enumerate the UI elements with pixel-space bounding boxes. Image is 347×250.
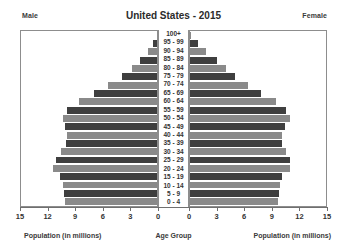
bar-male xyxy=(148,48,157,55)
bar-male xyxy=(53,165,157,172)
bar-row xyxy=(190,56,326,64)
bar-row xyxy=(190,48,326,56)
bar-female xyxy=(190,115,290,122)
bar-male xyxy=(122,73,157,80)
bar-row xyxy=(190,156,326,164)
bar-row xyxy=(190,123,326,131)
bar-female xyxy=(190,65,226,72)
bar-row xyxy=(190,89,326,97)
axis-tick-label: 3 xyxy=(128,212,132,221)
bar-female xyxy=(190,198,278,205)
bar-male xyxy=(66,140,157,147)
bar-male xyxy=(65,198,157,205)
bar-female xyxy=(190,173,282,180)
bar-female xyxy=(190,32,191,39)
bar-row xyxy=(21,31,157,39)
bar-row xyxy=(21,123,157,131)
age-group-label: 5 - 9 xyxy=(159,190,188,198)
axis-tick-label: 0 xyxy=(156,212,160,221)
axis-tick xyxy=(130,207,131,211)
bar-female xyxy=(190,73,235,80)
bar-row xyxy=(190,198,326,206)
age-group-label: 15 - 19 xyxy=(159,173,188,181)
population-pyramid-chart: Male Female United States - 2015 100+95 … xyxy=(0,0,347,250)
right-axis-caption: Population (in millions) xyxy=(254,232,331,239)
bar-row xyxy=(190,64,326,72)
age-group-label: 10 - 14 xyxy=(159,182,188,190)
age-group-label: 75 - 79 xyxy=(159,72,188,80)
bar-female xyxy=(190,98,276,105)
bar-row xyxy=(21,56,157,64)
bar-row xyxy=(190,164,326,172)
age-group-label: 55 - 59 xyxy=(159,106,188,114)
bar-row xyxy=(21,131,157,139)
bar-row xyxy=(21,139,157,147)
axis-tick-label: 3 xyxy=(215,212,219,221)
bar-male xyxy=(108,82,157,89)
bar-row xyxy=(190,173,326,181)
axis-tick xyxy=(48,207,49,211)
bar-row xyxy=(21,73,157,81)
bar-female xyxy=(190,107,286,114)
plot-area: 100+95 - 9990 - 9485 - 8980 - 8475 - 797… xyxy=(20,30,327,207)
bar-female xyxy=(190,48,206,55)
age-group-label: 20 - 24 xyxy=(159,165,188,173)
bar-row xyxy=(21,148,157,156)
bar-row xyxy=(21,89,157,97)
bar-male xyxy=(140,57,157,64)
bar-female xyxy=(190,90,261,97)
bar-row xyxy=(21,156,157,164)
bar-row xyxy=(21,189,157,197)
bar-female xyxy=(190,165,290,172)
axis-tick xyxy=(327,207,328,211)
bar-male xyxy=(67,132,157,139)
age-group-axis: 100+95 - 9990 - 9485 - 8980 - 8475 - 797… xyxy=(158,30,189,207)
bar-row xyxy=(21,48,157,56)
axis-tick-label: 6 xyxy=(242,212,246,221)
bar-row xyxy=(21,198,157,206)
age-group-label: 80 - 84 xyxy=(159,64,188,72)
value-axis: 1512963003691215 xyxy=(20,207,327,229)
bar-row xyxy=(21,39,157,47)
age-group-label: 60 - 64 xyxy=(159,97,188,105)
bar-male xyxy=(63,182,157,189)
bar-row xyxy=(190,189,326,197)
male-panel xyxy=(20,30,158,207)
axis-tick xyxy=(272,207,273,211)
age-group-label: 90 - 94 xyxy=(159,47,188,55)
bar-row xyxy=(190,181,326,189)
bar-row xyxy=(190,106,326,114)
axis-tick xyxy=(75,207,76,211)
bar-male xyxy=(132,65,157,72)
bar-female xyxy=(190,140,282,147)
bar-male xyxy=(63,115,157,122)
bar-female xyxy=(190,157,290,164)
bar-row xyxy=(21,98,157,106)
age-group-label: 70 - 74 xyxy=(159,81,188,89)
axis-tick xyxy=(299,207,300,211)
axis-tick-label: 6 xyxy=(101,212,105,221)
bar-female xyxy=(190,190,279,197)
bar-male xyxy=(153,40,157,47)
axis-tick xyxy=(158,207,159,211)
age-group-label: 50 - 54 xyxy=(159,114,188,122)
bar-male xyxy=(61,148,157,155)
bar-female xyxy=(190,182,280,189)
bar-female xyxy=(190,148,286,155)
age-group-label: 35 - 39 xyxy=(159,139,188,147)
age-group-label: 45 - 49 xyxy=(159,123,188,131)
bar-male xyxy=(60,173,157,180)
bar-male xyxy=(67,107,157,114)
bar-female xyxy=(190,57,217,64)
bar-male xyxy=(56,157,157,164)
axis-tick-label: 12 xyxy=(295,212,303,221)
bar-row xyxy=(21,173,157,181)
age-group-label: 25 - 29 xyxy=(159,156,188,164)
axis-tick-label: 15 xyxy=(323,212,331,221)
axis-tick xyxy=(189,207,190,211)
age-group-label: 100+ xyxy=(159,30,188,38)
axis-line xyxy=(20,207,327,208)
age-group-label: 95 - 99 xyxy=(159,38,188,46)
bar-female xyxy=(190,123,285,130)
bar-male xyxy=(64,190,157,197)
